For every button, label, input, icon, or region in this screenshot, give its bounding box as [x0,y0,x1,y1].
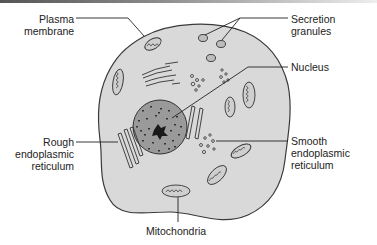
label-nucleus: Nucleus [291,61,329,73]
label-line: Plasma [24,13,74,25]
label-line: Mitochondria [146,225,206,237]
label-line: reticulum [4,160,74,172]
label-mitochondria: Mitochondria [146,225,206,237]
label-line: membrane [24,25,74,37]
label-line: Nucleus [291,61,329,73]
label-line: reticulum [291,159,350,171]
label-line: Rough [4,136,74,148]
label-line: granules [291,25,335,37]
label-line: Secretion [291,13,335,25]
label-plasma-membrane: Plasma membrane [24,13,74,37]
label-line: endoplasmic [291,147,350,159]
label-rough-er: Rough endoplasmic reticulum [4,136,74,172]
label-line: Smooth [291,135,350,147]
label-smooth-er: Smooth endoplasmic reticulum [291,135,350,171]
nucleus [133,100,187,154]
label-secretion-granules: Secretion granules [291,13,335,37]
label-line: endoplasmic [4,148,74,160]
